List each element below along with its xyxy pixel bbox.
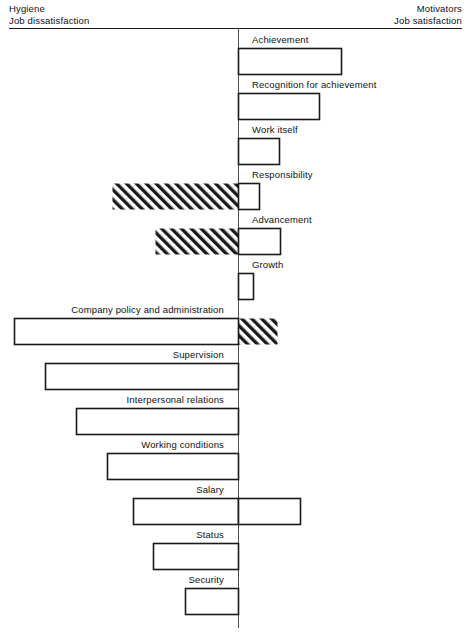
bars-plot	[0, 0, 471, 638]
bar-label: Achievement	[252, 34, 471, 45]
bar-segment-left	[46, 364, 239, 390]
bar-segment-left	[134, 499, 239, 525]
bar-label: Supervision	[0, 349, 224, 360]
bar-segment-right	[239, 229, 281, 255]
bar-segment-left	[108, 454, 239, 480]
bar-segment-hatched-right	[239, 319, 278, 345]
bar-segment-left	[154, 544, 239, 570]
bar-label: Recognition for achievement	[252, 79, 471, 90]
bar-label: Responsibility	[252, 169, 471, 180]
bar-label: Salary	[0, 484, 224, 495]
bar-label: Interpersonal relations	[0, 394, 224, 405]
bar-label: Status	[0, 529, 224, 540]
bar-segment-right	[239, 274, 254, 300]
bar-segment-hatched-left	[156, 229, 239, 255]
bar-segment-right	[239, 184, 260, 210]
bar-segment-right	[239, 499, 301, 525]
bar-segment-left	[15, 319, 239, 345]
bar-label: Working conditions	[0, 439, 224, 450]
bar-label: Advancement	[252, 214, 471, 225]
bar-label: Work itself	[252, 124, 471, 135]
bar-segment-hatched-left	[113, 184, 239, 210]
bar-segment-left	[186, 589, 239, 615]
bar-segment-right	[239, 139, 280, 165]
herzberg-chart-figure: Hygiene Job dissatisfaction Motivators J…	[0, 0, 471, 638]
bar-label: Security	[0, 574, 224, 585]
bar-label: Growth	[252, 259, 471, 270]
bar-segment-left	[77, 409, 239, 435]
bar-segment-right	[239, 94, 320, 120]
bar-segment-right	[239, 49, 342, 75]
bar-label: Company policy and administration	[0, 304, 224, 315]
